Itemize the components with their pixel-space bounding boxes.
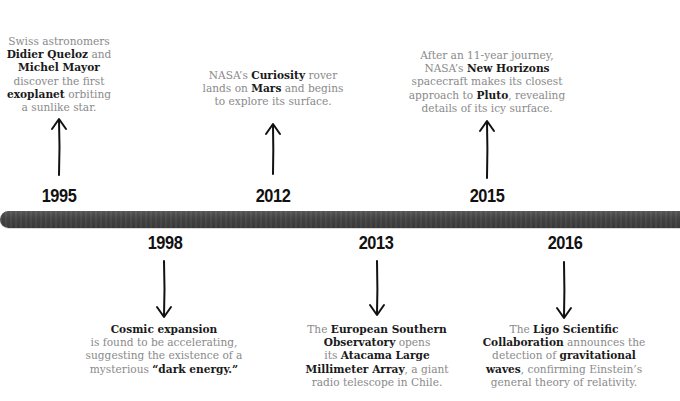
body-text: approach to (409, 89, 477, 101)
body-text: The (510, 323, 534, 335)
body-text: announces the (564, 336, 646, 348)
arrow-down-icon (367, 259, 387, 317)
body-text: After an 11-year journey, (420, 49, 554, 61)
body-text: , confirming Einstein’s (521, 363, 642, 375)
body-text: opens (395, 336, 430, 348)
body-text: and (88, 48, 111, 60)
highlight-text: Atacama Large (341, 349, 430, 361)
description-line: mysterious “dark energy.” (86, 363, 243, 376)
description-line: Collaboration announces the (483, 336, 646, 349)
event-1998-description: Cosmic expansionis found to be accelerat… (86, 323, 243, 376)
highlight-text: Cosmic expansion (111, 323, 218, 335)
highlight-text: Collaboration (483, 336, 564, 348)
highlight-text: European Southern (331, 323, 447, 335)
description-line: details of its icy surface. (409, 102, 565, 115)
description-line: radio telescope in Chile. (305, 376, 448, 389)
description-line: The European Southern (305, 323, 448, 336)
body-text: its (324, 349, 340, 361)
arrow-down-icon (554, 260, 574, 320)
description-line: a sunlike star. (7, 101, 112, 114)
highlight-text: waves (486, 363, 521, 375)
description-line: is found to be accelerating, (86, 336, 243, 349)
description-line: spacecraft makes its closest (409, 75, 565, 88)
timeline-bar (0, 211, 680, 228)
description-line: Swiss astronomers (7, 35, 112, 48)
arrow-down-icon (154, 259, 174, 319)
body-text: and begins (281, 82, 343, 94)
body-text: spacecraft makes its closest (411, 75, 562, 87)
body-text: rover (305, 69, 337, 81)
body-text: radio telescope in Chile. (312, 376, 443, 388)
year-label-1995: 1995 (33, 186, 85, 205)
body-text: lands on (203, 82, 252, 94)
year-label-2015: 2015 (461, 186, 513, 205)
event-2015-description: After an 11-year journey,NASA’s New Hori… (409, 49, 565, 115)
description-line: The Ligo Scientific (483, 323, 646, 336)
highlight-text: Didier Queloz (7, 48, 88, 60)
description-line: NASA’s Curiosity rover (203, 69, 344, 82)
body-text: details of its icy surface. (421, 102, 552, 114)
year-label-2013: 2013 (350, 233, 402, 252)
body-text: orbiting (65, 88, 111, 100)
body-text: The (307, 323, 331, 335)
year-label-2012: 2012 (247, 186, 299, 205)
description-line: to explore its surface. (203, 95, 344, 108)
body-text: discover the first (13, 75, 104, 87)
highlight-text: “dark energy.” (152, 363, 238, 375)
event-1995-description: Swiss astronomersDidier Queloz andMichel… (7, 35, 112, 114)
description-line: discover the first (7, 75, 112, 88)
body-text: mysterious (90, 363, 152, 375)
body-text: , a giant (405, 363, 449, 375)
year-label-1998: 1998 (139, 233, 191, 252)
highlight-text: Mars (251, 82, 281, 94)
event-2016-description: The Ligo ScientificCollaboration announc… (483, 323, 646, 389)
body-text: , revealing (508, 89, 565, 101)
highlight-text: Michel Mayor (18, 61, 100, 73)
body-text: to explore its surface. (214, 95, 331, 107)
body-text: detection of (492, 349, 559, 361)
body-text: general theory of relativity. (491, 376, 637, 388)
highlight-text: Millimeter Array (305, 363, 404, 375)
arrow-up-icon (263, 122, 283, 177)
arrow-up-icon (49, 117, 69, 177)
description-line: lands on Mars and begins (203, 82, 344, 95)
highlight-text: Observatory (324, 336, 396, 348)
year-label-2016: 2016 (539, 233, 591, 252)
body-text: NASA’s (424, 62, 466, 74)
description-line: Observatory opens (305, 336, 448, 349)
description-line: waves, confirming Einstein’s (483, 363, 646, 376)
description-line: Michel Mayor (7, 61, 112, 74)
event-2012-description: NASA’s Curiosity roverlands on Mars and … (203, 69, 344, 109)
body-text: a sunlike star. (22, 101, 97, 113)
event-2013-description: The European SouthernObservatory opensit… (305, 323, 448, 389)
body-text: NASA’s (209, 69, 251, 81)
arrow-up-icon (477, 119, 497, 181)
body-text: is found to be accelerating, (91, 336, 238, 348)
description-line: Didier Queloz and (7, 48, 112, 61)
highlight-text: exoplanet (7, 88, 65, 100)
highlight-text: Curiosity (251, 69, 305, 81)
description-line: exoplanet orbiting (7, 88, 112, 101)
description-line: general theory of relativity. (483, 376, 646, 389)
highlight-text: gravitational (560, 349, 636, 361)
body-text: Swiss astronomers (8, 35, 109, 47)
description-line: Cosmic expansion (86, 323, 243, 336)
description-line: After an 11-year journey, (409, 49, 565, 62)
highlight-text: Ligo Scientific (533, 323, 618, 335)
highlight-text: Pluto (477, 89, 509, 101)
description-line: Millimeter Array, a giant (305, 363, 448, 376)
description-line: suggesting the existence of a (86, 349, 243, 362)
description-line: approach to Pluto, revealing (409, 89, 565, 102)
description-line: its Atacama Large (305, 349, 448, 362)
body-text: suggesting the existence of a (86, 349, 243, 361)
description-line: NASA’s New Horizons (409, 62, 565, 75)
highlight-text: New Horizons (467, 62, 550, 74)
description-line: detection of gravitational (483, 349, 646, 362)
